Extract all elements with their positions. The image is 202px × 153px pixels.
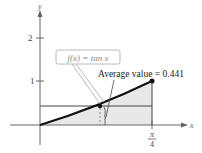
chart: f(x) = tan x Average value = 0.441 y x 2…: [0, 0, 202, 153]
average-annotation: Average value = 0.441: [98, 69, 184, 79]
y-tick-label-2: 2: [28, 33, 33, 43]
y-axis-label: y: [37, 2, 42, 11]
function-label: f(x) = tan x: [68, 53, 109, 63]
intersection-dot: [98, 104, 102, 108]
callout-line-a: [72, 64, 100, 104]
endpoint-dot: [150, 79, 155, 84]
y-tick-label-1: 1: [30, 76, 35, 86]
x-tick-label-4: 4: [150, 140, 154, 149]
x-axis-arrow-icon: [181, 123, 188, 128]
y-axis-arrow-icon: [38, 10, 43, 17]
x-axis-label: x: [189, 121, 194, 130]
shaded-area: [40, 81, 152, 125]
x-tick-label-pi: π: [150, 130, 155, 139]
